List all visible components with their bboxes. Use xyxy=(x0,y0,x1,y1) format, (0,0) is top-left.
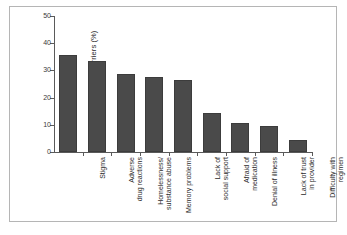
bar xyxy=(231,123,249,152)
x-category-label: Lack of social support xyxy=(214,157,230,219)
y-tick-label: 10 xyxy=(43,120,51,129)
bar xyxy=(117,74,135,152)
bar xyxy=(289,140,307,152)
x-tick-mark xyxy=(111,152,112,156)
y-tick: 30 xyxy=(54,70,55,71)
x-category-label: Memory problems xyxy=(185,157,193,219)
x-category-label: Denial of illness xyxy=(271,157,279,219)
x-tick-mark xyxy=(169,152,170,156)
y-tick: 10 xyxy=(54,125,55,126)
x-tick-mark xyxy=(255,152,256,156)
bar xyxy=(260,126,278,152)
x-category-label: Lack of trust in provider xyxy=(300,157,316,219)
x-tick-mark xyxy=(197,152,198,156)
y-tick: 20 xyxy=(54,98,55,99)
x-tick-mark xyxy=(283,152,284,156)
y-tick: 0 xyxy=(54,152,55,153)
figure-frame: Patients Reporting Barriers (%) 01020304… xyxy=(9,6,337,222)
x-tick-mark xyxy=(140,152,141,156)
x-category-label: Adverse drug reactions xyxy=(128,157,144,219)
x-tick-mark xyxy=(83,152,84,156)
x-category-label: Stigma xyxy=(99,157,107,219)
bar xyxy=(174,80,192,152)
y-tick-label: 0 xyxy=(47,147,51,156)
x-category-label: Homelessness/ substance abuse xyxy=(157,157,173,219)
bar xyxy=(88,61,106,152)
x-tick-mark xyxy=(226,152,227,156)
plot-area: Patients Reporting Barriers (%) 01020304… xyxy=(54,16,312,152)
y-tick-label: 30 xyxy=(43,65,51,74)
x-category-label: Afraid of medication xyxy=(243,157,259,219)
bar xyxy=(203,113,221,152)
y-tick: 50 xyxy=(54,16,55,17)
bar xyxy=(145,77,163,152)
bar xyxy=(59,55,77,152)
y-tick-label: 40 xyxy=(43,38,51,47)
x-tick-mark xyxy=(312,152,313,156)
x-category-label: Difficulty with regimen xyxy=(329,157,345,219)
y-tick-label: 50 xyxy=(43,11,51,20)
y-tick: 40 xyxy=(54,43,55,44)
y-tick-label: 20 xyxy=(43,93,51,102)
